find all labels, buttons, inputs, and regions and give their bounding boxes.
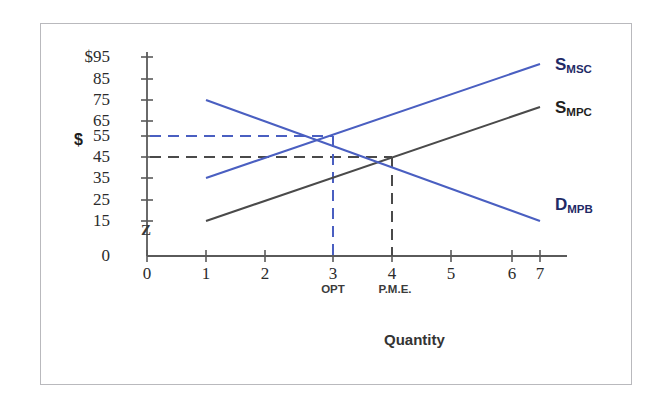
curve-label-dmpb-main: D	[555, 195, 567, 214]
annotation-opt-label: OPT	[321, 283, 345, 295]
x-tick-label: 0	[135, 264, 159, 284]
y-tick-label: 25	[64, 190, 110, 210]
curve-label-dmpb-sub: MPB	[567, 203, 593, 215]
x-tick-label: 2	[253, 264, 277, 284]
x-tick-label: 4	[380, 264, 404, 284]
x-tick-label: 6	[500, 264, 524, 284]
annotation-opt: OPT	[311, 283, 355, 295]
x-tick-label: 7	[528, 264, 552, 284]
y-axis-title: $	[74, 131, 83, 149]
y-tick-label: 45	[64, 147, 110, 167]
curve-label-smsc-main: S	[555, 55, 566, 74]
x-tick-label: 5	[439, 264, 463, 284]
curve-label-dmpb: DMPB	[555, 195, 593, 215]
x-axis-title: Quantity	[384, 331, 445, 348]
curve-label-smpc: SMPC	[555, 98, 592, 118]
y-tick-label: 85	[64, 69, 110, 89]
y-tick-label: 55	[64, 126, 110, 146]
y-tick-label: 0	[64, 246, 110, 266]
annotation-pme-label: P.M.E.	[378, 283, 411, 295]
y-tick-label: 75	[64, 90, 110, 110]
y-axis-break-icon: Z	[141, 222, 151, 239]
x-tick-label: 1	[194, 264, 218, 284]
y-tick-label: $95	[64, 47, 110, 67]
curve-label-smsc: SMSC	[555, 55, 592, 75]
y-tick-label: 15	[64, 211, 110, 231]
curve-label-smpc-main: S	[555, 98, 566, 117]
y-tick-label: 35	[64, 168, 110, 188]
x-tick-label: 3	[321, 264, 345, 284]
annotation-pme: P.M.E.	[368, 283, 422, 295]
curve-label-smpc-sub: MPC	[566, 106, 592, 118]
curve-label-smsc-sub: MSC	[566, 63, 592, 75]
